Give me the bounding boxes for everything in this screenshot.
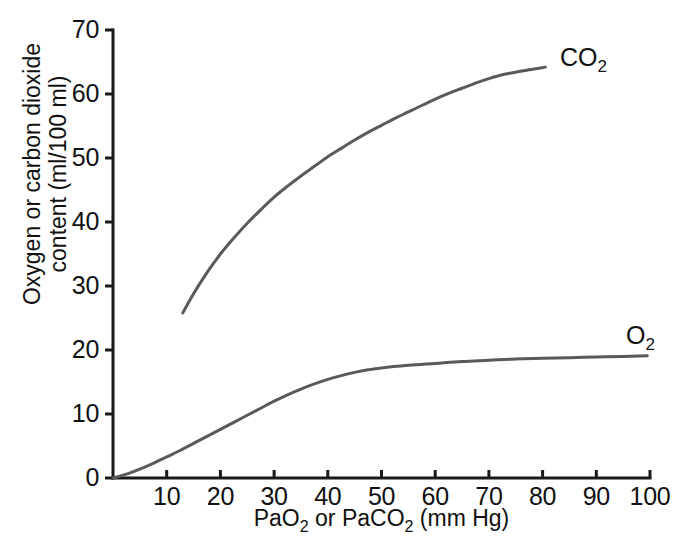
y-tick-label: 20: [72, 337, 99, 362]
y-tick-label: 40: [72, 209, 99, 234]
y-tick-label: 30: [72, 273, 99, 298]
y-tick-label: 70: [72, 17, 99, 42]
y-tick-label: 60: [72, 81, 99, 106]
y-tick-label: 10: [72, 401, 99, 426]
series-line-o2: [113, 356, 647, 478]
x-axis-title: PaO2 or PaCO2 (mm Hg): [113, 505, 650, 536]
data-series: [113, 67, 647, 478]
x-axis-title-pre: PaO: [254, 505, 300, 531]
y-axis-title: Oxygen or carbon dioxide content (ml/100…: [19, 9, 71, 339]
series-label-base: CO: [560, 43, 598, 71]
y-axis-title-line1: Oxygen or carbon dioxide: [19, 43, 45, 305]
series-line-co2: [183, 67, 545, 313]
y-tick-label: 50: [72, 145, 99, 170]
series-label-base: O: [626, 321, 645, 349]
series-label-co2: CO2: [560, 45, 607, 75]
series-label-subscript: 2: [598, 57, 607, 76]
series-label-o2: O2: [626, 323, 655, 353]
x-axis-title-sub1: 2: [300, 518, 309, 535]
x-axis-title-mid: or PaCO: [309, 505, 405, 531]
y-axis-title-line2: content (ml/100 ml): [45, 76, 71, 273]
x-axis-title-post: (mm Hg): [413, 505, 509, 531]
axes: [105, 30, 650, 478]
y-tick-label: 0: [85, 465, 99, 490]
series-label-subscript: 2: [645, 335, 654, 354]
